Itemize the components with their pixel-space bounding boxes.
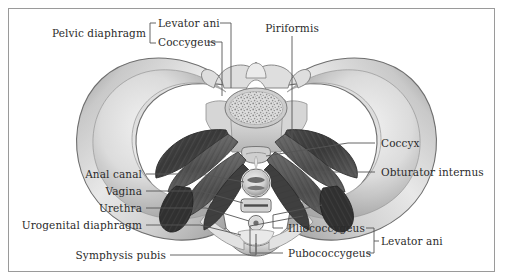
anococcygeal-raphe <box>255 156 258 168</box>
bracket-pelvic-diaphragm <box>150 23 156 43</box>
anatomy-figure: Pelvic diaphragm Levator ani Coccygeus P… <box>0 0 513 280</box>
cancellous-bone-texture <box>229 92 283 125</box>
spinous-process <box>246 63 266 78</box>
pelvic-anatomy-illustration <box>0 0 513 280</box>
